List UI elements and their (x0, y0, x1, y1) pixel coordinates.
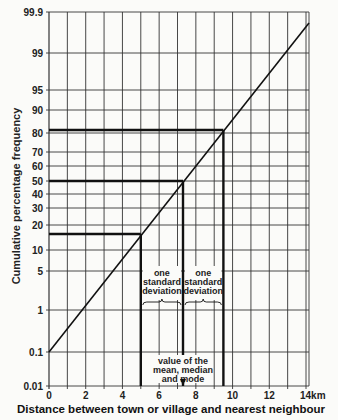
y-tick-label: 40 (32, 189, 44, 200)
y-tick-label: 60 (32, 161, 44, 172)
x-axis-ticks: 02468101214km (46, 390, 325, 401)
y-tick-label: 90 (32, 105, 44, 116)
y-tick-label: 5 (37, 266, 43, 277)
x-tick-label: 6 (156, 390, 162, 401)
y-tick-label: 99 (32, 48, 44, 59)
y-tick-label: 95 (32, 85, 44, 96)
x-tick-label: 0 (46, 390, 52, 401)
x-tick-label: 4 (120, 390, 126, 401)
y-axis-ticks: 0.010.115102030405060708090959999.9 (24, 7, 44, 392)
y-tick-label: 0.01 (24, 381, 44, 392)
y-tick-label: 10 (32, 245, 44, 256)
x-tick-label: 12 (264, 390, 276, 401)
y-tick-label: 80 (32, 128, 44, 139)
grid (46, 12, 309, 389)
reference-lines (49, 130, 223, 386)
y-tick-label: 99.9 (24, 7, 44, 18)
probability-chart: 0.010.115102030405060708090959999.9 0246… (0, 0, 338, 420)
sd-left-label: deviation (142, 286, 182, 296)
x-tick-label: 14km (300, 390, 326, 401)
y-tick-label: 30 (32, 203, 44, 214)
x-axis-title: Distance between town or village and nea… (17, 403, 326, 415)
y-tick-label: 20 (32, 220, 44, 231)
y-tick-label: 50 (32, 176, 44, 187)
sd-right-label: deviation (183, 286, 223, 296)
y-tick-label: 0.1 (29, 347, 43, 358)
x-tick-label: 10 (227, 390, 239, 401)
y-axis-title: Cumulative percentage frequency (10, 107, 22, 285)
y-tick-label: 1 (37, 305, 43, 316)
x-tick-label: 8 (193, 390, 199, 401)
y-tick-label: 70 (32, 147, 44, 158)
x-tick-label: 2 (83, 390, 89, 401)
